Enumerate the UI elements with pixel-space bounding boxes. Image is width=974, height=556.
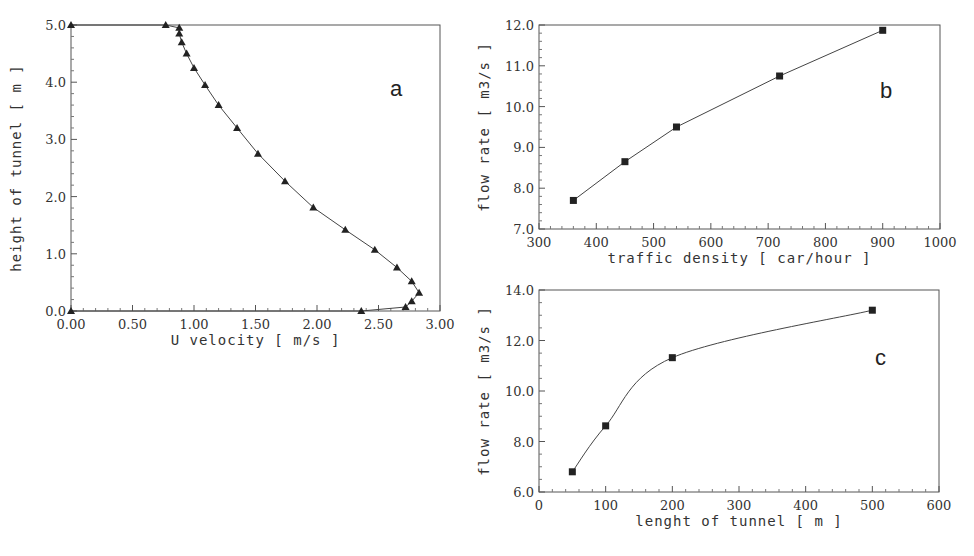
x-axis-label: traffic density [ car/hour ] [607,250,871,266]
y-tick-label: 8.0 [513,435,534,450]
x-tick-label: 0 [535,498,543,513]
square-marker [570,197,577,204]
y-tick-label: 4.0 [45,75,66,90]
x-tick-label: 0.00 [57,317,86,332]
x-tick-label: 3.00 [426,317,455,332]
x-tick-label: 0.50 [118,317,147,332]
x-tick-label: 400 [584,235,609,250]
y-tick-label: 14.0 [505,283,534,298]
y-tick-label: 9.0 [513,140,534,155]
x-tick-label: 2.00 [303,317,332,332]
x-tick-label: 1000 [923,235,956,250]
x-tick-label: 500 [860,498,885,513]
plot-frame [539,25,940,229]
square-marker [569,468,576,475]
data-series-line [573,30,882,200]
data-series-line [71,25,419,311]
square-marker [602,422,609,429]
square-marker [869,307,876,314]
x-tick-label: 200 [660,498,685,513]
x-tick-label: 1.00 [180,317,209,332]
triangle-marker [371,246,379,253]
y-tick-label: 3.0 [45,132,66,147]
x-tick-label: 700 [756,235,781,250]
triangle-marker [201,81,209,88]
data-series-line [572,310,872,472]
x-tick-label: 600 [698,235,723,250]
y-tick-label: 12.0 [505,18,534,33]
x-tick-label: 600 [927,498,952,513]
y-tick-label: 5.0 [45,18,66,33]
panel-letter: b [880,78,892,103]
x-tick-label: 2.50 [364,317,393,332]
x-tick-label: 300 [527,235,552,250]
chart-panel-c: 01002003004005006006.08.010.012.014.0len… [476,283,951,529]
x-tick-label: 800 [813,235,838,250]
y-tick-label: 1.0 [45,247,66,262]
square-marker [621,158,628,165]
y-tick-label: 8.0 [513,181,534,196]
x-tick-label: 100 [593,498,618,513]
square-marker [673,124,680,131]
y-tick-label: 11.0 [505,59,534,74]
triangle-marker [415,289,423,296]
panel-letter: c [875,345,886,370]
square-marker [669,354,676,361]
figure-canvas: 0.000.501.001.502.002.503.000.01.02.03.0… [0,0,974,556]
y-tick-label: 10.0 [505,384,534,399]
plot-frame [71,25,440,311]
x-axis-label: U velocity [ m/s ] [171,332,341,348]
square-marker [879,27,886,34]
triangle-marker [341,226,349,233]
y-axis-label: flow rate [ m3/s ] [476,42,492,212]
chart-panel-b: 30040050060070080090010007.08.09.010.011… [476,18,957,266]
y-tick-label: 2.0 [45,190,66,205]
triangle-marker [215,101,223,108]
y-tick-label: 10.0 [505,100,534,115]
y-tick-label: 12.0 [505,334,534,349]
square-marker [776,73,783,80]
x-tick-label: 400 [793,498,818,513]
x-tick-label: 900 [870,235,895,250]
chart-panel-a: 0.000.501.001.502.002.503.000.01.02.03.0… [8,18,454,348]
triangle-marker [190,64,198,71]
plot-frame [539,290,939,492]
panel-letter: a [390,76,403,101]
y-axis-label: flow rate [ m3/s ] [476,306,492,476]
x-tick-label: 1.50 [241,317,270,332]
triangle-marker [183,50,191,57]
y-tick-label: 6.0 [513,485,534,500]
x-tick-label: 300 [727,498,752,513]
y-axis-label: height of tunnel [ m ] [8,64,24,271]
y-tick-label: 7.0 [513,222,534,237]
triangle-marker [178,38,186,45]
x-tick-label: 500 [641,235,666,250]
triangle-marker [393,264,401,271]
y-tick-label: 0.0 [45,304,66,319]
x-axis-label: lenght of tunnel [ m ] [635,513,842,529]
